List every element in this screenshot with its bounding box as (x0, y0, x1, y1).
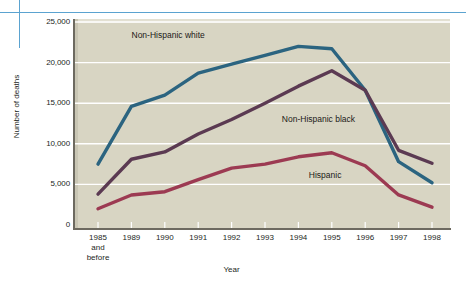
x-tick-label: 1994 (289, 233, 307, 243)
x-tick-label: 1989 (122, 233, 140, 243)
y-tick-label: 5,000 (4, 180, 70, 188)
y-tick-label: 25,000 (4, 18, 70, 26)
x-tick-label: 1993 (256, 233, 274, 243)
x-tick-label: 1998 (423, 233, 441, 243)
series-line (98, 153, 432, 209)
x-tick-label: 1991 (189, 233, 207, 243)
series-label: Hispanic (309, 170, 342, 180)
line-chart: Number of deaths 25,00020,00015,00010,00… (0, 0, 466, 292)
x-axis-title: Year (224, 265, 240, 274)
series-label: Non-Hispanic black (282, 114, 355, 124)
x-tick-label: 1997 (390, 233, 408, 243)
x-axis: 1985andbefore198919901991199219931994199… (74, 233, 450, 289)
x-tick-label: 1990 (156, 233, 174, 243)
y-axis: Number of deaths 25,00020,00015,00010,00… (0, 0, 70, 292)
series-line (98, 46, 432, 182)
x-tick-label: 1992 (223, 233, 241, 243)
x-axis-line (73, 228, 451, 230)
chart-page: Number of deaths 25,00020,00015,00010,00… (0, 0, 466, 292)
chart-canvas (74, 19, 450, 228)
x-tick-label: 1996 (356, 233, 374, 243)
y-axis-line (73, 19, 75, 229)
series-label: Non-Hispanic white (132, 30, 205, 40)
y-tick-label: 0 (4, 221, 70, 229)
x-tick-label: 1995 (323, 233, 341, 243)
y-tick-label: 20,000 (4, 59, 70, 67)
x-tick-label: 1985andbefore (87, 233, 110, 263)
y-tick-label: 10,000 (4, 140, 70, 148)
series-line (98, 71, 432, 194)
y-tick-label: 15,000 (4, 99, 70, 107)
